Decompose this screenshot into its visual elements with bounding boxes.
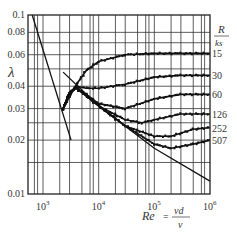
data-point [184, 144, 186, 146]
data-point [106, 58, 108, 60]
data-point [197, 142, 199, 144]
data-point [190, 143, 192, 145]
data-point [144, 121, 146, 123]
data-point [116, 105, 118, 107]
data-point [163, 76, 165, 78]
data-point [153, 144, 155, 146]
data-point [195, 93, 197, 95]
x-axis-ticks: 103104105106 [36, 199, 217, 212]
data-point [116, 84, 118, 86]
data-point [159, 144, 161, 146]
data-point [183, 53, 185, 55]
y-tick-label: 0.1 [13, 9, 26, 20]
data-point [162, 146, 164, 148]
data-point [110, 104, 112, 106]
data-point [64, 102, 66, 104]
data-point [189, 74, 191, 76]
data-point [142, 53, 144, 55]
data-point [170, 135, 172, 137]
data-point [136, 52, 138, 54]
data-point [94, 86, 96, 88]
data-point [153, 98, 155, 100]
x-axis-label-eq: = [163, 211, 169, 222]
data-point [114, 113, 116, 115]
data-point [148, 134, 150, 136]
data-point [171, 96, 173, 98]
data-point [186, 145, 188, 147]
data-point [189, 52, 191, 54]
roughness-label-126: 126 [212, 109, 227, 120]
data-point [136, 80, 138, 82]
data-point [169, 95, 171, 97]
data-point [122, 108, 124, 110]
data-point [124, 108, 126, 110]
data-point [185, 74, 187, 76]
data-point [147, 120, 149, 122]
data-point [179, 52, 181, 54]
data-point [191, 114, 193, 116]
data-point [142, 102, 144, 104]
roughness-label-507: 507 [212, 135, 227, 146]
data-point [122, 55, 124, 57]
data-point [157, 119, 159, 121]
data-point [127, 118, 129, 120]
data-point [122, 84, 124, 86]
data-point [86, 87, 88, 89]
data-point [140, 134, 142, 136]
data-point [185, 113, 187, 115]
data-point [197, 127, 199, 129]
y-axis-ticks: 0.010.020.030.040.060.080.1 [8, 9, 26, 199]
data-point [195, 112, 197, 114]
data-point [138, 122, 140, 124]
data-point [207, 126, 209, 128]
data-point [144, 132, 146, 134]
data-point [150, 120, 152, 122]
series-laminar-line [32, 15, 71, 140]
data-point [181, 132, 183, 134]
data-point [167, 136, 169, 138]
data-point [159, 135, 161, 137]
data-point [133, 54, 135, 56]
data-point [96, 63, 98, 65]
data-point [179, 74, 181, 76]
y-tick-label: 0.03 [8, 103, 26, 114]
data-point [167, 147, 169, 149]
data-point [159, 96, 161, 98]
data-point [112, 86, 114, 88]
data-point [88, 87, 90, 89]
data-point [197, 53, 199, 55]
data-point [133, 105, 135, 107]
data-point [130, 82, 132, 84]
data-point [189, 93, 191, 95]
data-point [116, 115, 118, 117]
data-point [175, 133, 177, 135]
data-point [159, 52, 161, 54]
data-point [118, 84, 120, 86]
data-point [153, 119, 155, 121]
data-point [139, 53, 141, 55]
data-point [165, 75, 167, 77]
data-point [203, 128, 205, 130]
data-point [179, 146, 181, 148]
data-point [74, 88, 76, 90]
data-point [142, 131, 144, 133]
data-point [189, 113, 191, 115]
x-tick-label: 106 [203, 199, 217, 212]
series-60-line [63, 88, 210, 108]
data-point [164, 145, 166, 147]
data-point [185, 93, 187, 95]
data-point [124, 84, 126, 86]
nikuradse-chart: 0.010.020.030.040.060.080.1 103104105106… [0, 0, 237, 236]
data-point [191, 75, 193, 77]
data-point [183, 114, 185, 116]
data-point [153, 136, 155, 138]
data-point [110, 57, 112, 59]
data-point [150, 52, 152, 54]
data-point [104, 87, 106, 89]
data-point [197, 94, 199, 96]
data-point [147, 78, 149, 80]
data-point [100, 86, 102, 88]
data-point [104, 60, 106, 62]
data-point [65, 100, 67, 102]
data-point [174, 74, 176, 76]
